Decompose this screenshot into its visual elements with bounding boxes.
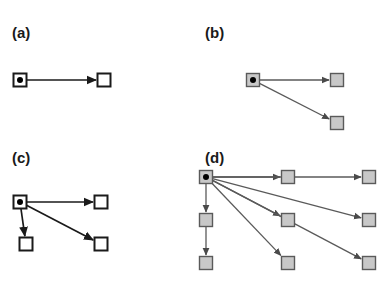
figure-background <box>0 0 387 283</box>
node-square-c-n3 <box>95 238 108 251</box>
node-square-d-m1 <box>200 214 213 227</box>
node-square-b-n1 <box>331 74 344 87</box>
root-node-dot-d <box>203 174 209 180</box>
panel-label-c: (c) <box>12 149 30 166</box>
node-square-d-b1 <box>200 257 213 270</box>
node-square-d-t2 <box>363 171 376 184</box>
node-square-d-b2 <box>282 257 295 270</box>
node-square-c-n1 <box>95 196 108 209</box>
node-square-d-m2 <box>282 214 295 227</box>
node-square-a-n1 <box>98 74 111 87</box>
root-node-dot-a <box>17 77 23 83</box>
root-node-dot-b <box>250 77 256 83</box>
node-square-d-b3 <box>363 257 376 270</box>
panel-label-b: (b) <box>205 24 224 41</box>
node-square-b-n2 <box>331 117 344 130</box>
node-square-d-m3 <box>363 214 376 227</box>
node-square-d-t1 <box>282 171 295 184</box>
panel-label-a: (a) <box>12 24 30 41</box>
root-node-dot-c <box>17 199 23 205</box>
panel-label-d: (d) <box>205 149 224 166</box>
figure-canvas: (a)(b)(c)(d) <box>0 0 387 283</box>
node-square-c-n2 <box>20 238 33 251</box>
